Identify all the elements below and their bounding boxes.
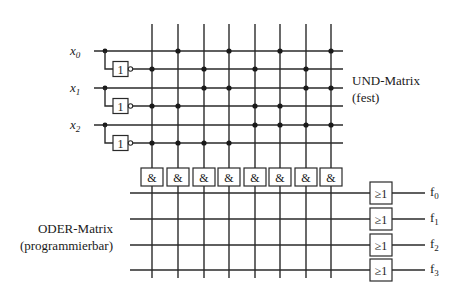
input-label: x0 <box>69 43 81 60</box>
output-label: f0 <box>430 184 439 201</box>
svg-text:1: 1 <box>118 63 124 77</box>
and-connection-dot <box>149 66 154 71</box>
and-connection-dot <box>328 85 333 90</box>
and-connection-dot <box>226 140 231 145</box>
svg-text:&: & <box>250 171 260 185</box>
and-connection-dot <box>303 66 308 71</box>
and-connection-dot <box>328 122 333 127</box>
and-connection-dot <box>175 103 180 108</box>
pla-diagram: x01x11x21 &&&&&&&& ≥1f0≥1f1≥1f2≥1f3 UND-… <box>0 0 455 296</box>
svg-text:&: & <box>147 171 157 185</box>
inverter-bubble <box>128 67 132 71</box>
and-matrix-subtitle: (fest) <box>352 90 379 105</box>
svg-text:≥1: ≥1 <box>375 187 388 201</box>
output-label: f2 <box>430 236 439 253</box>
and-connection-dot <box>252 122 257 127</box>
and-connection-dot <box>303 122 308 127</box>
and-connection-dot <box>226 85 231 90</box>
and-connection-dot <box>328 48 333 53</box>
and-matrix-title: UND-Matrix <box>352 73 420 88</box>
svg-text:1: 1 <box>118 137 124 151</box>
and-connection-dot <box>277 48 282 53</box>
svg-text:&: & <box>173 171 183 185</box>
or-gates: ≥1f0≥1f1≥1f2≥1f3 <box>370 182 439 281</box>
svg-text:&: & <box>301 171 311 185</box>
svg-text:&: & <box>326 171 336 185</box>
product-term-lines <box>152 24 331 278</box>
and-connection-dot <box>226 48 231 53</box>
and-connection-dot <box>149 140 154 145</box>
input-label: x1 <box>69 80 80 97</box>
svg-text:≥1: ≥1 <box>375 264 388 278</box>
svg-text:&: & <box>275 171 285 185</box>
svg-text:≥1: ≥1 <box>375 213 388 227</box>
and-connection-dot <box>277 122 282 127</box>
and-connection-dot <box>303 85 308 90</box>
input-section: x01x11x21 <box>69 43 343 151</box>
and-connection-dot <box>252 103 257 108</box>
inverter-bubble <box>128 104 132 108</box>
and-connection-dot <box>149 103 154 108</box>
and-connection-dot <box>201 140 206 145</box>
or-matrix-subtitle: (programmierbar) <box>20 238 113 253</box>
and-connection-dot <box>277 103 282 108</box>
and-connection-dot <box>201 66 206 71</box>
svg-text:1: 1 <box>118 100 124 114</box>
svg-text:&: & <box>199 171 209 185</box>
and-connection-dot <box>175 48 180 53</box>
output-label: f1 <box>430 210 439 227</box>
and-gates: &&&&&&&& <box>141 168 342 186</box>
input-label: x2 <box>69 117 81 134</box>
or-matrix-title: ODER-Matrix <box>38 221 114 236</box>
and-connection-dot <box>175 140 180 145</box>
and-connection-dot <box>201 85 206 90</box>
svg-text:&: & <box>224 171 234 185</box>
and-connection-dot <box>252 66 257 71</box>
or-matrix <box>130 193 370 270</box>
inverter-bubble <box>128 141 132 145</box>
output-label: f3 <box>430 261 439 278</box>
svg-text:≥1: ≥1 <box>375 239 388 253</box>
